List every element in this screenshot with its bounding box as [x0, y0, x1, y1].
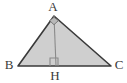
- vertex-label-b: B: [5, 57, 14, 72]
- vertex-label-a: A: [48, 0, 58, 14]
- geometry-figure: A B C H: [0, 0, 127, 83]
- vertex-label-h: H: [50, 68, 59, 83]
- vertex-label-c: C: [115, 57, 124, 72]
- triangle-diagram-svg: A B C H: [0, 0, 127, 83]
